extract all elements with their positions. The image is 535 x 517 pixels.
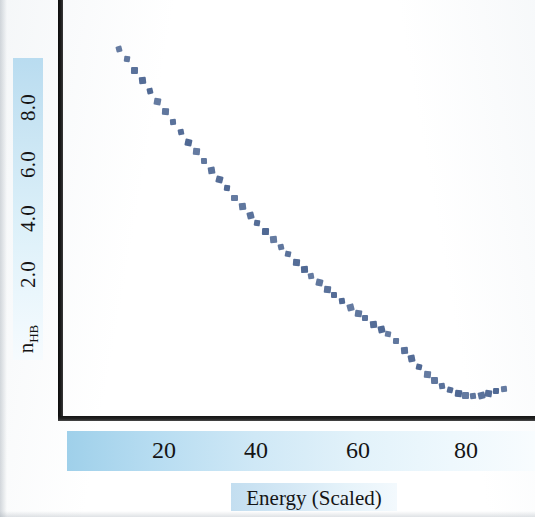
data-point xyxy=(446,387,454,395)
data-point xyxy=(331,292,337,298)
data-point xyxy=(185,138,193,146)
data-point xyxy=(423,371,430,378)
data-point xyxy=(131,67,138,74)
data-point xyxy=(393,338,400,345)
data-point xyxy=(277,243,284,250)
data-point xyxy=(362,315,368,321)
data-point xyxy=(254,220,261,227)
data-point xyxy=(454,390,461,397)
data-point xyxy=(400,346,407,353)
data-point xyxy=(346,303,354,311)
data-point xyxy=(139,77,146,84)
data-point xyxy=(146,87,154,95)
data-point xyxy=(370,320,377,327)
data-point xyxy=(354,309,362,317)
data-point xyxy=(162,108,169,115)
data-point xyxy=(300,265,307,272)
data-point xyxy=(115,46,123,54)
data-point xyxy=(154,97,162,105)
data-point xyxy=(470,392,477,399)
figure-root: 8.0 6.0 4.0 2.0 nHB 20 40 60 80 Energy (… xyxy=(0,0,535,517)
data-point xyxy=(170,118,177,125)
data-point xyxy=(177,128,184,135)
data-point xyxy=(339,298,346,305)
data-point xyxy=(208,167,215,174)
data-point xyxy=(377,325,385,333)
data-point xyxy=(270,236,277,243)
data-point xyxy=(123,56,130,63)
data-point xyxy=(385,331,392,338)
data-point xyxy=(485,389,493,397)
data-point xyxy=(415,363,422,370)
data-point xyxy=(223,185,230,192)
data-point xyxy=(193,148,200,155)
data-point xyxy=(246,211,254,219)
data-point xyxy=(323,286,330,293)
data-point xyxy=(408,355,416,363)
data-point xyxy=(231,195,237,201)
data-point xyxy=(308,272,315,279)
data-curve xyxy=(0,0,535,517)
data-point xyxy=(293,258,300,265)
data-point xyxy=(315,279,323,287)
data-point xyxy=(215,176,223,184)
data-point xyxy=(462,392,469,399)
data-point xyxy=(439,383,446,390)
data-point xyxy=(239,203,246,210)
data-point xyxy=(500,385,507,392)
data-point xyxy=(262,228,269,235)
data-point xyxy=(493,388,499,394)
data-point xyxy=(285,251,292,258)
data-point xyxy=(431,377,438,384)
data-point xyxy=(200,158,207,165)
